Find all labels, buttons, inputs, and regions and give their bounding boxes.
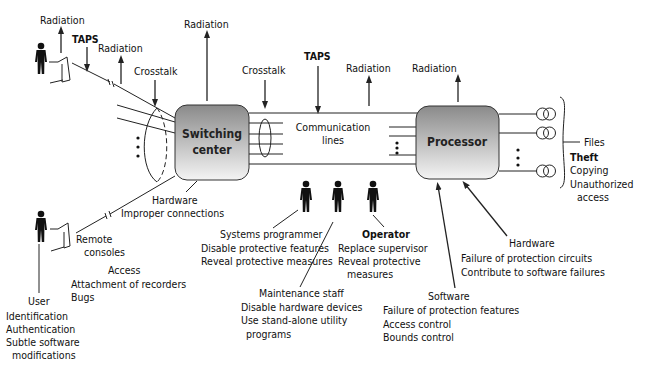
threat-disable-protective: Disable protective features [201,242,329,254]
threat-unauthorized: Unauthorized [570,178,633,190]
threat-measures-op: measures [347,268,393,280]
threat-programs: programs [246,328,291,340]
crosstalk-lens-middle [259,119,271,157]
label-remote-consoles-1: Remote [76,233,113,245]
threat-disable-hardware: Disable hardware devices [241,301,363,313]
threat-replace-supervisor: Replace supervisor [338,242,428,254]
label-radiation-3: Radiation [184,18,229,30]
label-hardware-switch: Hardware [152,194,198,206]
label-taps-1: TAPS [72,33,99,45]
threat-identification: Identification [6,310,68,322]
threat-access-control: Access control [383,318,451,330]
threat-access: access [577,191,609,203]
label-systems-programmer: Systems programmer [220,228,322,240]
threat-authentication: Authentication [6,323,75,335]
crosstalk-lens-solid [144,108,157,182]
threat-bugs: Bugs [71,291,94,303]
threat-failure-circuits: Failure of protection circuits [461,252,592,264]
disk-icon [537,108,556,120]
label-files: Files [584,136,605,148]
communication-lines: Communication lines [249,113,420,164]
diagram-canvas: Radiation TAPS Radiation Crosstalk Switc… [0,0,646,377]
processor: Processor [416,106,499,179]
svg-text:Switching: Switching [182,127,242,141]
label-radiation-1: Radiation [40,14,85,26]
svg-text:center: center [192,143,232,157]
threat-improper-connections: Improper connections [121,207,224,219]
label-hardware-processor: Hardware [509,237,555,249]
label-radiation-4: Radiation [346,62,391,74]
threat-contribute-software: Contribute to software failures [461,266,605,278]
label-maintenance-staff: Maintenance staff [259,287,344,299]
svg-text:Processor: Processor [427,135,488,149]
person-icon [332,181,344,212]
person-icon [35,43,47,74]
terminal-icon [50,223,70,251]
label-radiation-5: Radiation [412,62,457,74]
arrow-hardware-processor [465,184,507,236]
threat-failure-protection-features: Failure of protection features [383,304,519,316]
label-software: Software [428,290,470,302]
terminal-icon [49,57,70,83]
label-remote-consoles-2: consoles [84,246,125,258]
label-radiation-2: Radiation [98,42,143,54]
label-crosstalk-1: Crosstalk [134,65,178,77]
label-access: Access [108,264,140,276]
threat-stand-alone-utility: Use stand-alone utility [241,314,348,326]
switching-center: Switching center [175,105,249,180]
vulnerability-diagram: Radiation TAPS Radiation Crosstalk Switc… [0,0,646,377]
arrow-software [438,186,455,288]
threat-bounds-control: Bounds control [383,331,454,343]
threat-modifications: modifications [12,349,76,361]
threat-theft: Theft [570,151,599,163]
svg-text:lines: lines [322,134,344,146]
label-operator: Operator [362,228,410,240]
threat-reveal-protective-op: Reveal protective [338,255,421,267]
label-user: User [28,295,50,307]
disk-icon [537,127,556,139]
threat-copying: Copying [570,164,609,176]
svg-text:Communication: Communication [296,121,370,133]
person-icon [300,181,312,212]
label-taps-2: TAPS [304,50,331,62]
label-crosstalk-2: Crosstalk [242,64,286,76]
threat-attachment-recorders: Attachment of recorders [71,278,186,290]
person-icon [35,211,47,242]
disk-icon [537,165,556,177]
threat-subtle-software: Subtle software [6,336,80,348]
person-icon [367,181,379,212]
